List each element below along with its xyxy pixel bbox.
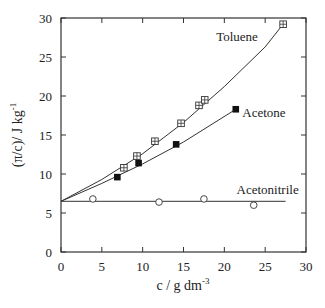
x-tick-label: 25 xyxy=(259,259,272,274)
y-tick-label: 15 xyxy=(39,128,52,143)
marker-open-circle xyxy=(90,196,97,203)
series-label-toluene: Toluene xyxy=(216,29,258,44)
plot-border xyxy=(61,18,306,252)
y-tick-label: 10 xyxy=(39,167,52,182)
series-label-acetone: Acetone xyxy=(242,105,286,120)
marker-crossed-square xyxy=(152,138,159,145)
marker-open-circle xyxy=(201,196,208,203)
marker-filled-square xyxy=(114,174,121,181)
x-tick-label: 30 xyxy=(300,259,313,274)
y-tick-label: 0 xyxy=(46,245,53,260)
x-tick-label: 0 xyxy=(58,259,65,274)
x-tick-label: 15 xyxy=(177,259,190,274)
marker-filled-square xyxy=(135,160,142,167)
x-tick-label: 20 xyxy=(218,259,231,274)
x-tick-label: 5 xyxy=(99,259,106,274)
marker-crossed-square xyxy=(134,153,141,160)
marker-crossed-square xyxy=(178,120,185,127)
marker-crossed-square xyxy=(121,164,128,171)
y-tick-label: 30 xyxy=(39,11,52,26)
y-tick-label: 25 xyxy=(39,50,52,65)
marker-crossed-square xyxy=(201,97,208,104)
y-tick-label: 5 xyxy=(46,206,53,221)
marker-open-circle xyxy=(250,202,257,209)
marker-filled-square xyxy=(232,106,239,113)
x-tick-label: 10 xyxy=(136,259,149,274)
chart: 051015202530051015202530 TolueneAcetoneA… xyxy=(0,0,325,308)
y-axis-label: (π/c)/ J kg-1 xyxy=(8,103,26,167)
marker-open-circle xyxy=(156,199,163,206)
series-label-acetonitrile: Acetonitrile xyxy=(237,182,299,197)
y-tick-label: 20 xyxy=(39,89,52,104)
x-axis-label: c / g dm-3 xyxy=(157,276,210,293)
marker-crossed-square xyxy=(280,21,287,28)
marker-filled-square xyxy=(173,141,180,148)
